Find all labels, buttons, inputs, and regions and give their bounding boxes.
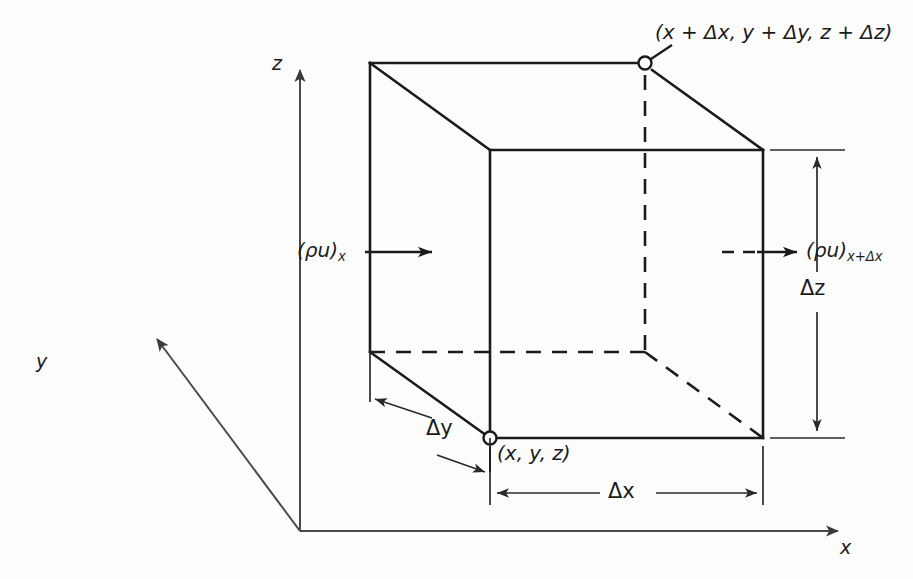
corner-markers: [484, 57, 652, 445]
inflow-flux-symbol: (ρu): [297, 238, 338, 262]
outflow-flux-label: (ρu)x+Δx: [806, 240, 883, 263]
dy-dimension-group: [370, 352, 490, 472]
figure-container: z y x (x + Δx, y + Δy, z + Δz) (x, y, z)…: [0, 0, 913, 579]
inflow-flux-label: (ρu)x: [297, 240, 346, 263]
y-axis-label: y: [36, 352, 47, 371]
cube-hidden-edges: [370, 75, 763, 438]
dz-dimension-label: Δz: [800, 278, 825, 299]
outflow-flux-symbol: (ρu): [806, 238, 847, 262]
cube-visible-edges: [370, 63, 763, 438]
outflow-flux-subscript: x+Δx: [847, 249, 883, 264]
dx-dimension-label: Δx: [608, 481, 635, 502]
far-corner-leader: [651, 45, 672, 59]
edge-top-left-diagonal: [370, 63, 490, 150]
diagram-canvas: [0, 0, 913, 579]
dy-dimension-label: Δy: [426, 418, 453, 439]
x-axis-label: x: [840, 538, 851, 557]
y-axis-line: [157, 339, 300, 531]
dy-dimension-arrow-back: [375, 399, 432, 418]
far-corner-marker: [639, 57, 652, 70]
dy-dimension-arrow-front: [437, 455, 485, 472]
inflow-flux-subscript: x: [338, 249, 346, 264]
far-corner-coordinate-label: (x + Δx, y + Δy, z + Δz): [655, 22, 892, 42]
z-axis-label: z: [272, 54, 282, 73]
hidden-edge-back-to-front-bottom-right: [645, 352, 763, 438]
far-corner-leader-line: [651, 45, 672, 59]
edge-top-right-diagonal: [652, 70, 763, 150]
origin-corner-coordinate-label: (x, y, z): [497, 443, 571, 463]
